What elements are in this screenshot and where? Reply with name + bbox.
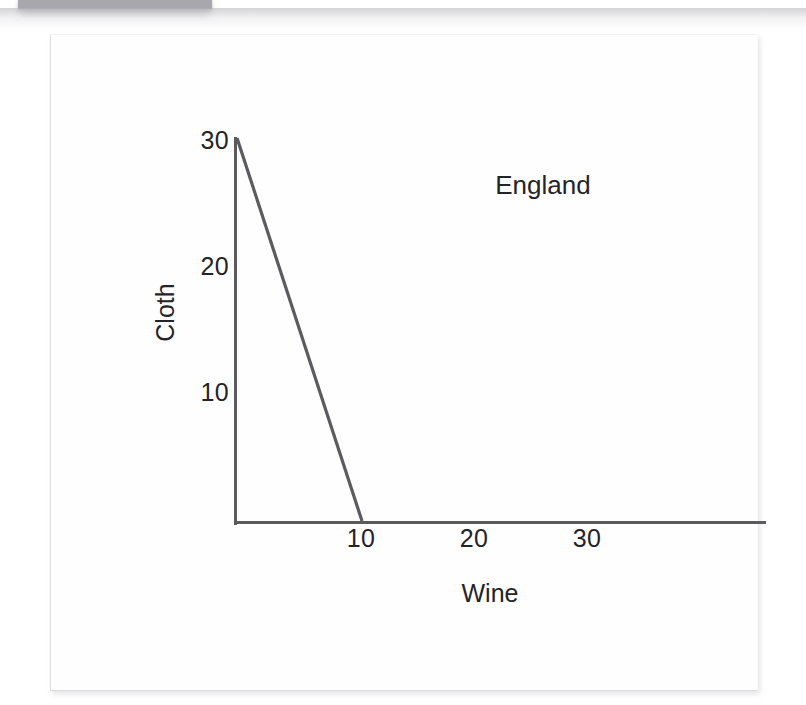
chart-annotation-england: England	[448, 170, 638, 201]
ppf-line	[237, 138, 362, 521]
ppf-chart: 30 20 10 10 20 30 Cloth Wine England	[0, 0, 806, 705]
y-tick-label-20: 20	[183, 252, 229, 281]
ppf-line-svg	[0, 0, 806, 705]
scanned-figure-screenshot: 30 20 10 10 20 30 Cloth Wine England	[0, 0, 806, 705]
y-tick-label-30: 30	[183, 126, 229, 155]
y-tick-label-10: 10	[183, 378, 229, 407]
x-axis-title: Wine	[420, 579, 560, 608]
x-tick-label-30: 30	[559, 524, 615, 553]
x-tick-label-20: 20	[446, 524, 502, 553]
x-tick-label-10: 10	[333, 524, 389, 553]
y-axis-title: Cloth	[151, 268, 180, 358]
